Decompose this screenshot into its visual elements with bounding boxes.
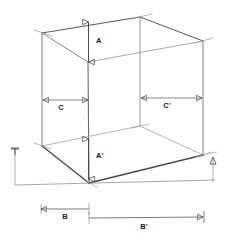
- dimension-B-prime: B': [89, 211, 204, 231]
- dimension-C: C: [43, 100, 88, 112]
- edge-bottom-back-left-to-center: [42, 126, 140, 146]
- dimension-A: A: [89, 22, 103, 62]
- dimension-A-prime-label: A': [96, 151, 104, 160]
- edge-bottom-back-center-to-right: [140, 126, 203, 155]
- bottom-face-edges: [42, 126, 203, 183]
- ground-reference: [11, 148, 217, 185]
- left-height-arrowhead: [11, 149, 19, 155]
- tick-top-back-left: [34, 30, 52, 36]
- tick-top-back-center: [131, 14, 152, 19]
- edge-bottom-front-left-diagonal: [42, 146, 89, 183]
- ground-line: [15, 180, 215, 185]
- edge-top-back-center-to-right: [140, 17, 203, 41]
- dimension-C-prime: C': [141, 98, 202, 110]
- dimension-A-prime: A': [89, 139, 104, 179]
- edge-top-front-left-diagonal: [42, 33, 88, 62]
- dimension-B: B: [41, 203, 89, 221]
- dimension-B-prime-label: B': [140, 222, 148, 231]
- edge-top-back-left-to-center: [42, 17, 140, 33]
- diagram-canvas: A A' C C' B B': [0, 0, 227, 248]
- tick-mid-back-center: [132, 124, 149, 128]
- isometric-box-drawing: A A' C C' B B': [0, 0, 227, 248]
- edge-bottom-front-right-diagonal: [89, 155, 203, 183]
- dimension-C-prime-label: C': [163, 101, 171, 110]
- dimension-A-label: A: [96, 36, 102, 45]
- edge-top-front-right-diagonal: [88, 41, 203, 62]
- box-edges: [34, 14, 213, 187]
- dimension-B-label: B: [62, 212, 68, 221]
- top-face-edges: [42, 17, 203, 62]
- dimension-C-label: C: [58, 103, 64, 112]
- dimension-B-prime-line: [89, 217, 203, 218]
